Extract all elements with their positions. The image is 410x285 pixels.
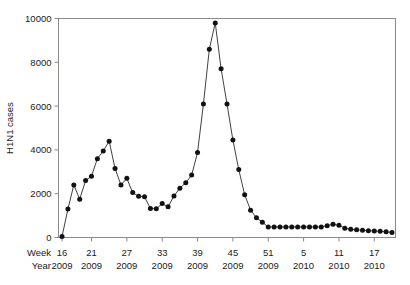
data-point [236, 167, 241, 172]
data-point-markers [60, 20, 395, 239]
x-tick-year-label: 2010 [328, 260, 349, 271]
data-line [62, 23, 392, 237]
x-tick-year-label: 2009 [81, 260, 102, 271]
data-point [160, 201, 165, 206]
data-point [325, 223, 330, 228]
data-point [136, 194, 141, 199]
y-tick-label: 0 [46, 232, 51, 243]
data-point [301, 224, 306, 229]
data-point [71, 182, 76, 187]
x-tick-week-label: 11 [334, 247, 344, 258]
data-point [201, 101, 206, 106]
data-point [130, 190, 135, 195]
week-row-label: Week [27, 247, 51, 258]
year-row-label: Year [32, 260, 51, 271]
data-point [389, 230, 394, 235]
x-tick-week-label: 45 [228, 247, 239, 258]
x-tick-week-label: 5 [301, 247, 306, 258]
data-point [60, 234, 65, 239]
data-point [124, 176, 129, 181]
data-point [272, 224, 277, 229]
y-axis-ticks [55, 19, 59, 238]
x-tick-week-label: 21 [86, 247, 97, 258]
x-tick-year-label: 2009 [116, 260, 137, 271]
y-tick-label: 10000 [25, 13, 51, 24]
data-point [366, 228, 371, 233]
data-point [83, 178, 88, 183]
data-point [65, 207, 70, 212]
h1n1-cases-line-chart: 0200040006000800010000 16212733394551511… [0, 0, 410, 285]
data-point [183, 180, 188, 185]
x-tick-week-label: 39 [192, 247, 203, 258]
y-tick-label: 8000 [30, 57, 51, 68]
x-tick-week-label: 17 [369, 247, 380, 258]
data-point [230, 138, 235, 143]
x-axis-ticks [62, 238, 374, 242]
data-point [254, 215, 259, 220]
data-point [148, 206, 153, 211]
data-point [319, 224, 324, 229]
plot-frame [59, 19, 396, 238]
y-tick-label: 2000 [30, 188, 51, 199]
data-point [348, 227, 353, 232]
data-point [189, 173, 194, 178]
x-tick-year-label: 2009 [152, 260, 173, 271]
x-axis-week-labels: 1621273339455151117 [57, 247, 380, 258]
x-tick-week-label: 16 [57, 247, 68, 258]
data-point [118, 182, 123, 187]
data-point [207, 47, 212, 52]
data-point [354, 227, 359, 232]
data-point [225, 101, 230, 106]
data-point [342, 226, 347, 231]
x-tick-year-label: 2009 [51, 260, 72, 271]
x-tick-year-label: 2010 [293, 260, 314, 271]
data-point [313, 224, 318, 229]
data-point [113, 166, 118, 171]
data-point [307, 224, 312, 229]
data-point [248, 208, 253, 213]
data-point [289, 224, 294, 229]
data-point [378, 229, 383, 234]
data-point [95, 156, 100, 161]
data-point [142, 194, 147, 199]
data-point [177, 186, 182, 191]
data-point [278, 224, 283, 229]
y-tick-label: 4000 [30, 144, 51, 155]
data-point [331, 222, 336, 227]
data-point [219, 66, 224, 71]
x-tick-year-label: 2009 [258, 260, 279, 271]
data-point [195, 150, 200, 155]
figure-container: 0200040006000800010000 16212733394551511… [0, 0, 410, 285]
data-point [283, 224, 288, 229]
data-point [266, 224, 271, 229]
data-point [154, 206, 159, 211]
data-point [384, 229, 389, 234]
x-tick-week-label: 51 [263, 247, 274, 258]
x-tick-year-label: 2009 [222, 260, 243, 271]
data-point [89, 174, 94, 179]
data-point [372, 228, 377, 233]
x-tick-year-label: 2010 [364, 260, 385, 271]
data-point [336, 223, 341, 228]
data-point [166, 204, 171, 209]
data-point [260, 220, 265, 225]
data-point [213, 20, 218, 25]
x-tick-week-label: 33 [157, 247, 168, 258]
data-point [360, 228, 365, 233]
data-point [101, 149, 106, 154]
y-axis-title: H1N1 cases [4, 102, 15, 154]
x-tick-week-label: 27 [122, 247, 133, 258]
x-axis-year-labels: 2009200920092009200920092009201020102010 [51, 260, 384, 271]
data-point [242, 192, 247, 197]
data-point [171, 193, 176, 198]
data-point [77, 197, 82, 202]
data-point [295, 224, 300, 229]
y-tick-label: 6000 [30, 101, 51, 112]
x-tick-year-label: 2009 [187, 260, 208, 271]
data-point [107, 139, 112, 144]
y-axis-tick-labels: 0200040006000800010000 [25, 13, 51, 243]
